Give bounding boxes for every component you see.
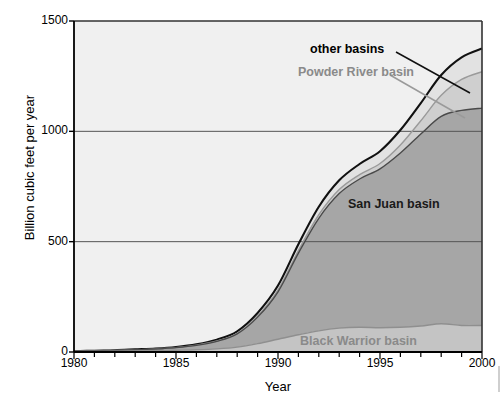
x-tick-label-1980: 1980 — [61, 356, 88, 370]
annotation-other-basins: other basins — [310, 42, 384, 56]
x-tick-label-1990: 1990 — [265, 356, 292, 370]
annotation-san-juan-basin: San Juan basin — [348, 197, 440, 211]
annotation-black-warrior-basin: Black Warrior basin — [300, 334, 417, 348]
page-edge-artifact — [498, 366, 500, 392]
chart-figure: 050010001500 19801985199019952000 Billio… — [0, 0, 504, 408]
annotation-powder-river-basin: Powder River basin — [298, 65, 414, 79]
x-tick-label-1995: 1995 — [367, 356, 394, 370]
x-tick-label-2000: 2000 — [469, 356, 496, 370]
y-axis-title: Billion cubic feet per year — [22, 43, 37, 293]
x-axis-title: Year — [74, 379, 482, 394]
x-tick-label-1985: 1985 — [163, 356, 190, 370]
